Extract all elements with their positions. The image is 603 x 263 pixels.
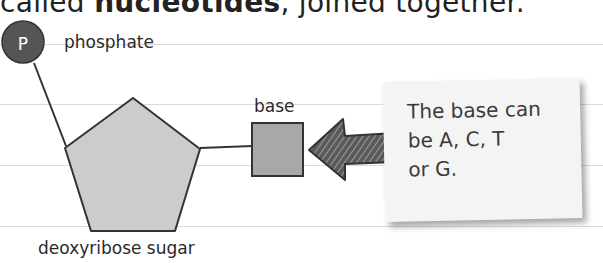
phosphate-label: phosphate: [64, 32, 154, 52]
phosphate-sugar-bond: [34, 63, 66, 146]
base-label: base: [254, 96, 295, 116]
note-card: The base can be A, C, T or G.: [383, 78, 583, 222]
sugar-base-bond: [200, 146, 252, 148]
phosphate-symbol: P: [11, 34, 35, 54]
sugar-label: deoxyribose sugar: [38, 238, 195, 258]
arrow-icon: [309, 119, 395, 180]
sugar-pentagon: [65, 98, 200, 231]
note-text: The base can be A, C, T or G.: [407, 94, 579, 185]
base-square: [252, 123, 303, 176]
